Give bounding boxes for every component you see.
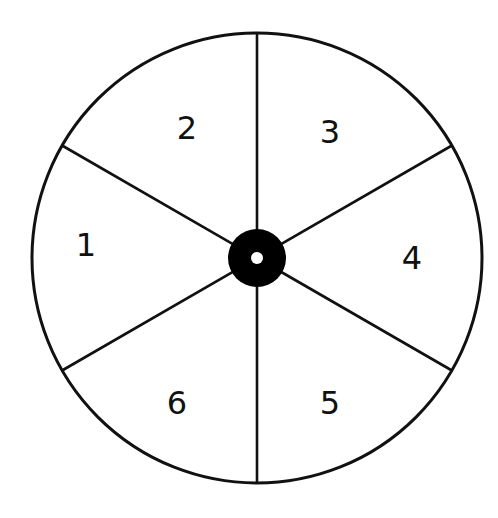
sector-label-2: 2 [177, 109, 197, 147]
sector-label-5: 5 [320, 384, 340, 422]
sector-label-3: 3 [320, 113, 340, 151]
sector-label-6: 6 [167, 384, 187, 422]
sector-label-1: 1 [76, 226, 96, 264]
spinner-diagram: 1 2 3 4 5 6 [0, 0, 498, 518]
spinner-hub-hole [251, 252, 263, 264]
sector-label-4: 4 [402, 239, 422, 277]
